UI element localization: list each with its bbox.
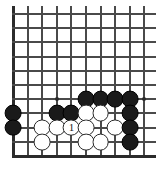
grid-line-horizontal (12, 70, 156, 72)
grid-line-horizontal (12, 13, 156, 15)
stone-white (92, 133, 109, 150)
star-point (55, 97, 59, 101)
grid-line-horizontal (12, 41, 156, 43)
go-board-diagram: 1 (0, 0, 162, 176)
grid-line-horizontal (12, 84, 156, 86)
stone-white (92, 105, 109, 122)
grid-line-horizontal (12, 56, 156, 58)
grid-line-horizontal (12, 27, 156, 29)
star-point (142, 97, 146, 101)
stone-black (5, 119, 22, 136)
move-number-label: 1 (64, 120, 79, 135)
stone-black (121, 133, 138, 150)
grid-line-horizontal (12, 155, 156, 158)
stone-white (34, 133, 51, 150)
